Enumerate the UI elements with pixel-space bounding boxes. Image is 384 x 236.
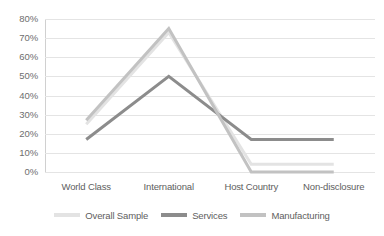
- series-line-manufacturing: [86, 29, 334, 172]
- y-axis-tick-label: 10%: [0, 148, 38, 158]
- legend-color-swatch-icon: [54, 213, 80, 217]
- legend-item-label: Overall Sample: [85, 210, 148, 221]
- y-axis-tick-label: 80%: [0, 14, 38, 24]
- x-axis-tick-label: Host Country: [210, 180, 293, 196]
- legend-color-swatch-icon: [161, 213, 187, 217]
- chart-legend: Overall SampleServicesManufacturing: [0, 206, 384, 224]
- y-axis-tick-label: 60%: [0, 52, 38, 62]
- series-container: [45, 19, 375, 172]
- legend-item[interactable]: Manufacturing: [240, 210, 329, 221]
- y-axis-tick-label: 70%: [0, 33, 38, 43]
- legend-item[interactable]: Overall Sample: [54, 210, 148, 221]
- x-axis-tick-label: World Class: [45, 180, 128, 196]
- x-axis-tick-label: International: [128, 180, 211, 196]
- y-axis-tick-label: 50%: [0, 71, 38, 81]
- y-axis-tick-label: 20%: [0, 129, 38, 139]
- y-axis-tick-label: 30%: [0, 110, 38, 120]
- y-axis: 80%70%60%50%40%30%20%10%0%: [0, 0, 42, 180]
- x-axis-tick-label: Non-disclosure: [293, 180, 376, 196]
- legend-item-label: Manufacturing: [271, 210, 329, 221]
- y-axis-tick-label: 0%: [0, 167, 38, 177]
- series-line-services: [86, 76, 334, 139]
- plot-area: [45, 19, 375, 172]
- legend-item-label: Services: [192, 210, 227, 221]
- legend-color-swatch-icon: [240, 213, 266, 217]
- y-axis-tick-label: 40%: [0, 91, 38, 101]
- x-axis: World ClassInternationalHost CountryNon-…: [45, 180, 375, 196]
- legend-item[interactable]: Services: [161, 210, 227, 221]
- line-chart: 80%70%60%50%40%30%20%10%0% World ClassIn…: [0, 0, 384, 236]
